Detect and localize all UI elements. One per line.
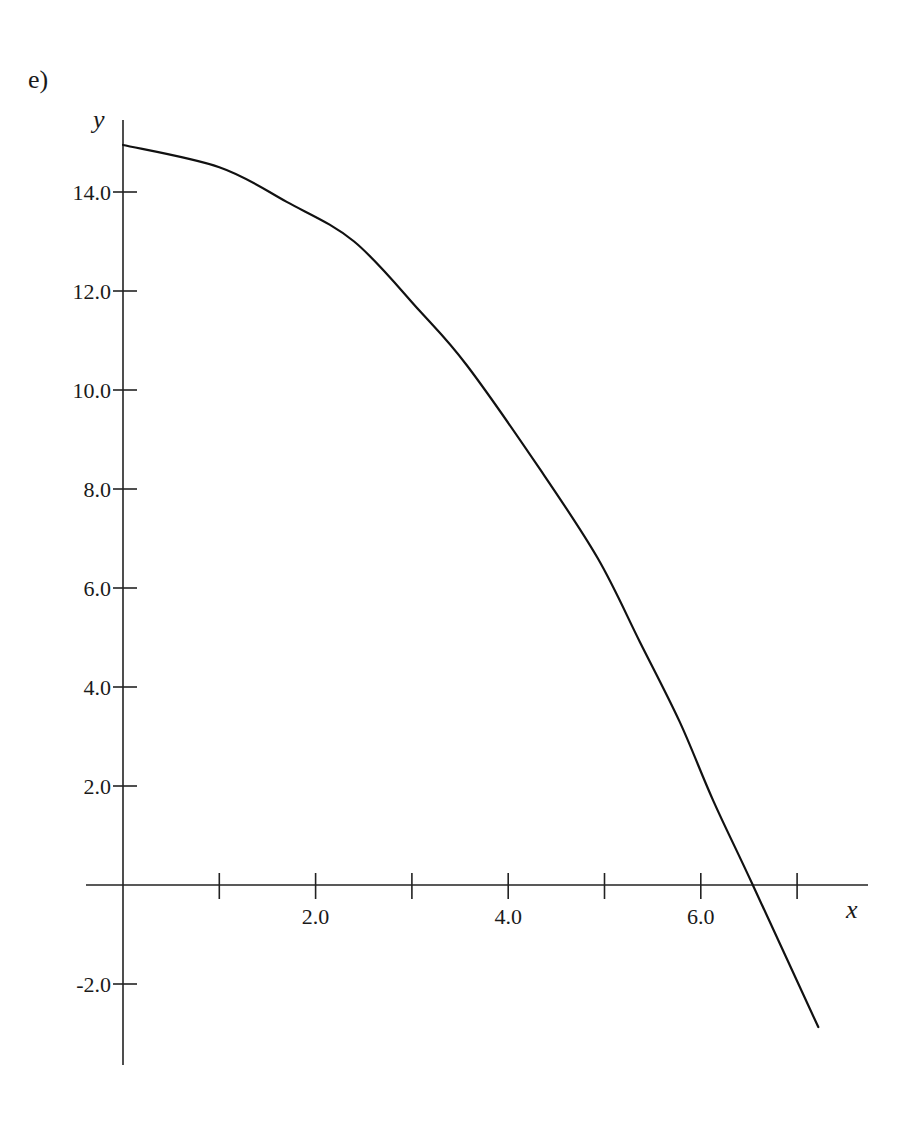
data-curve	[123, 145, 818, 1027]
x-ticks	[219, 873, 797, 899]
y-tick-label: 8.0	[84, 477, 112, 502]
axes: 2.04.06.0 14.012.010.08.06.04.02.0-2.0 x…	[73, 105, 869, 1065]
y-tick-labels: 14.012.010.08.06.04.02.0-2.0	[73, 180, 112, 997]
x-tick-labels: 2.04.06.0	[302, 904, 715, 929]
y-tick-label: 4.0	[84, 675, 112, 700]
y-tick-label: 2.0	[84, 774, 112, 799]
x-tick-label: 2.0	[302, 904, 330, 929]
y-tick-label: 14.0	[73, 180, 112, 205]
panel-label: e)	[28, 65, 48, 94]
x-tick-label: 6.0	[687, 904, 715, 929]
chart-canvas: e) 2.04.06.0 14.012.010.08.06.04.02.0-2.…	[0, 0, 917, 1121]
x-tick-label: 4.0	[494, 904, 522, 929]
y-ticks	[113, 192, 137, 984]
y-tick-label: 12.0	[73, 279, 112, 304]
y-tick-label: 6.0	[84, 576, 112, 601]
x-axis-label: x	[845, 895, 858, 924]
y-axis-label: y	[90, 105, 105, 134]
y-tick-label: 10.0	[73, 378, 112, 403]
y-tick-label: -2.0	[76, 972, 111, 997]
